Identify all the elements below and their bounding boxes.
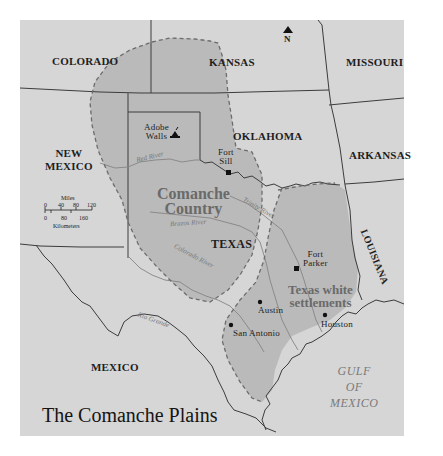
label-fort-sill: Fort Sill: [218, 148, 234, 167]
label-new-mexico: NEW MEXICO: [45, 147, 93, 173]
region-texas-white-settlements: Texas white settlements: [288, 283, 353, 309]
label-new-mexico-line1: NEW: [55, 147, 82, 159]
fort-parker-marker-icon: [294, 266, 299, 271]
label-oklahoma: OKLAHOMA: [233, 131, 302, 142]
houston-dot-icon: [323, 313, 327, 317]
label-mexico: MEXICO: [91, 362, 139, 373]
scale-mile-tick-120: 120: [87, 202, 96, 208]
fort-parker-line2: Parker: [303, 258, 328, 268]
label-colorado: COLORADO: [52, 56, 118, 67]
scale-mile-tick-80: 80: [73, 202, 79, 208]
san-antonio-dot-icon: [229, 323, 233, 327]
label-kansas: KANSAS: [209, 57, 255, 68]
scale-km-label: Kilometers: [53, 223, 80, 229]
region-comanche-country: Comanche Country: [157, 186, 230, 216]
fort-sill-marker-icon: [226, 170, 231, 175]
north-label: N: [284, 35, 291, 44]
label-gulf-of-mexico: GULF OF MEXICO: [330, 363, 378, 412]
label-texas: TEXAS: [211, 238, 252, 250]
scale-km-tick-0: 0: [44, 215, 47, 221]
austin-dot-icon: [258, 300, 262, 304]
region-comanche-line2: Country: [165, 200, 223, 217]
adobe-walls-line2: Walls: [146, 131, 167, 141]
label-fort-parker: Fort Parker: [303, 250, 328, 269]
label-san-antonio: San Antonio: [233, 329, 280, 338]
label-austin: Austin: [258, 306, 283, 315]
label-missouri: MISSOURI: [346, 57, 403, 68]
label-arkansas: ARKANSAS: [349, 150, 411, 161]
gulf-line3: MEXICO: [330, 396, 378, 410]
scale-km-tick-160: 160: [79, 215, 88, 221]
scale-km-tick-80: 80: [61, 215, 67, 221]
label-adobe-walls: Adobe Walls: [144, 123, 169, 142]
fort-sill-line2: Sill: [219, 156, 232, 166]
scale-mile-tick-0: 0: [44, 202, 47, 208]
gulf-line1: GULF: [337, 364, 370, 378]
region-settlements-line2: settlements: [289, 295, 351, 310]
label-new-mexico-line2: MEXICO: [45, 160, 93, 172]
gulf-line2: OF: [346, 380, 363, 394]
scale-mile-tick-40: 40: [58, 202, 64, 208]
label-houston: Houston: [321, 320, 353, 329]
map-title: The Comanche Plains: [42, 404, 218, 427]
scale-miles-label: Miles: [61, 195, 75, 201]
